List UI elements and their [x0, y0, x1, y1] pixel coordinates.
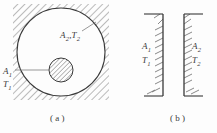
panel-a-outer-label: A2,T2 [60, 30, 80, 44]
panel-a-inner-area-label: A1 [3, 66, 12, 80]
panel-b-right-temp-label: T2 [192, 55, 201, 69]
panel-b-left-area-label: A1 [142, 41, 151, 55]
figure-container: A2,T2 A1 T1 A1 T1 A2 T2 ( a ) ( b ) [0, 0, 217, 133]
panel-b-left-temp-label: T1 [142, 55, 151, 69]
panel-a-drawing [13, 4, 109, 100]
panel-a-inner-temp-label: T1 [3, 79, 12, 93]
panel-b-caption: ( b ) [170, 113, 185, 123]
outer-circle-boundary [17, 8, 105, 96]
panel-b-right-area-label: A2 [192, 41, 201, 55]
inner-circle-hatched [49, 58, 73, 82]
panel-a-caption: ( a ) [50, 113, 65, 123]
